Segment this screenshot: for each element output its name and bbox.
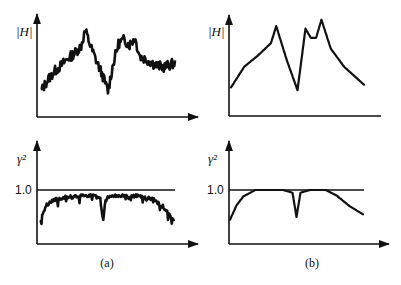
panel-a-coherence-curve	[40, 194, 174, 224]
caption-a: (a)	[100, 256, 113, 270]
panel-a-coherence-reference-label: 1.0	[15, 183, 32, 197]
panel-b-magnitude-ylabel: |H|	[208, 24, 225, 39]
figure-canvas: |H| γ² 1.0 |H| γ² 1.0 (a) (b)	[0, 0, 401, 285]
panel-a-coherence: γ² 1.0	[15, 141, 198, 244]
panel-a-magnitude: |H|	[16, 14, 198, 117]
panel-b-coherence-ylabel: γ²	[208, 151, 218, 166]
caption-b: (b)	[305, 256, 319, 270]
panel-b-magnitude-curve	[231, 20, 364, 90]
panel-a-coherence-ylabel: γ²	[17, 151, 27, 166]
panel-a-magnitude-curve	[41, 30, 175, 94]
panel-b-coherence-reference-label: 1.0	[207, 183, 224, 197]
panel-b-coherence-curve	[230, 190, 363, 220]
panel-b-coherence: γ² 1.0	[207, 141, 389, 244]
panel-b-magnitude: |H|	[208, 15, 381, 116]
panel-a-magnitude-ylabel: |H|	[16, 24, 33, 39]
